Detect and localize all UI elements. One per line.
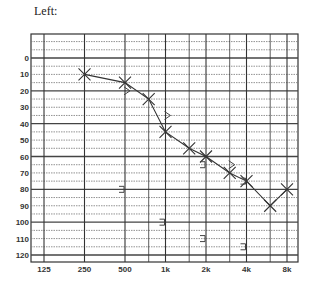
y-tick-label: 40 <box>20 120 29 129</box>
x-tick-label: 500 <box>118 265 132 274</box>
x-tick-label: 250 <box>78 265 92 274</box>
y-tick-label: 60 <box>20 153 29 162</box>
y-tick-label: 50 <box>20 136 29 145</box>
y-tick-label: 120 <box>16 251 30 260</box>
y-tick-label: 100 <box>16 218 30 227</box>
audiogram-chart: 01020304050607080901001101201252505001k2… <box>0 0 320 286</box>
y-tick-label: 30 <box>20 103 29 112</box>
y-tick-label: 0 <box>25 54 30 63</box>
y-tick-label: 10 <box>20 70 29 79</box>
y-tick-label: 20 <box>20 87 29 96</box>
y-tick-label: 70 <box>20 169 29 178</box>
y-tick-label: 90 <box>20 202 29 211</box>
x-tick-label: 1k <box>161 265 170 274</box>
series-x <box>79 68 294 211</box>
x-tick-label: 8k <box>283 265 292 274</box>
x-tick-label: 125 <box>37 265 51 274</box>
y-tick-label: 80 <box>20 185 29 194</box>
x-tick-label: 4k <box>242 265 251 274</box>
x-tick-label: 2k <box>202 265 211 274</box>
y-tick-label: 110 <box>16 235 29 244</box>
